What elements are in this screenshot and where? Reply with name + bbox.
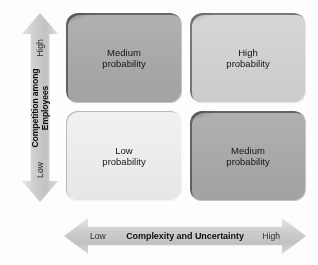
y-axis-high-label: High [35,39,45,57]
quadrant-top-right-line1: High [226,47,269,59]
y-axis-title-line1: Competition among [30,68,40,147]
y-axis-title: Competition amongEmployees [30,68,50,147]
quadrant-top-right-label: High probability [226,47,269,70]
quadrant-top-left-line2: probability [102,58,145,70]
quadrant-bottom-left-label: Low probability [102,145,145,168]
quadrant-bottom-left: Low probability [66,111,182,201]
quadrant-top-left-label: Medium probability [102,47,145,70]
quadrant-bottom-right: Medium probability [190,111,306,201]
y-axis-low-label: Low [35,162,45,178]
y-axis-title-line2: Employees [40,85,50,129]
quadrant-bottom-left-line1: Low [102,145,145,157]
quadrant-top-left-line1: Medium [102,47,145,59]
quadrant-grid: Medium probability High probability Low … [66,13,306,201]
matrix-figure: High Competition amongEmployees Low Medi… [0,0,318,265]
quadrant-bottom-right-line1: Medium [226,145,269,157]
quadrant-bottom-right-line2: probability [226,156,269,168]
x-axis-arrow: Low Complexity and Uncertainty High [64,218,306,254]
quadrant-top-right: High probability [190,13,306,103]
quadrant-bottom-right-label: Medium probability [226,145,269,168]
x-axis-high-label: High [262,231,280,241]
quadrant-bottom-left-line2: probability [102,156,145,168]
y-axis-arrow: High Competition amongEmployees Low [22,13,58,202]
quadrant-top-right-line2: probability [226,58,269,70]
quadrant-top-left: Medium probability [66,13,182,103]
